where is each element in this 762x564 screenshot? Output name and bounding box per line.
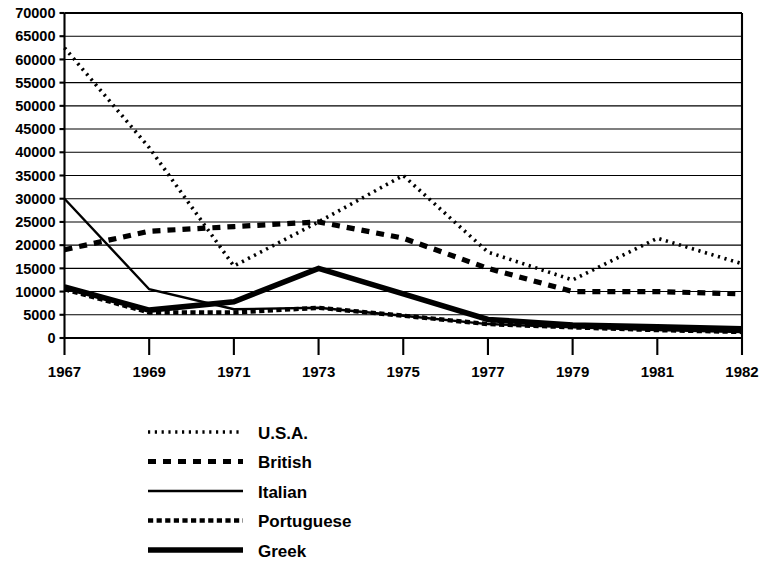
y-axis-tick-label: 40000 xyxy=(15,144,55,160)
x-axis-tick-labels: 196719691971197319751977197919811982 xyxy=(48,363,759,380)
y-axis-tick-label: 0 xyxy=(47,330,55,346)
y-axis-tick-label: 30000 xyxy=(15,191,55,207)
legend-label: U.S.A. xyxy=(258,424,308,443)
legend-label: British xyxy=(258,453,312,472)
x-axis-tick-label: 1967 xyxy=(48,363,81,380)
legend-label: Italian xyxy=(258,483,307,502)
y-axis-tick-label: 35000 xyxy=(15,168,55,184)
data-series-group xyxy=(65,48,743,332)
x-axis-tick-label: 1981 xyxy=(641,363,674,380)
y-axis-tick-label: 65000 xyxy=(15,28,55,44)
x-axis-tick-label: 1982 xyxy=(725,363,758,380)
y-axis-tick-label: 70000 xyxy=(15,5,55,21)
legend-item-italian: Italian xyxy=(148,483,307,502)
x-axis-tick-label: 1969 xyxy=(133,363,166,380)
x-axis-tickmarks xyxy=(65,338,743,355)
x-axis-tick-label: 1979 xyxy=(556,363,589,380)
chart-legend: U.S.A.BritishItalianPortugueseGreek xyxy=(148,424,352,561)
data-series-greek xyxy=(65,268,743,328)
legend-item-portuguese: Portuguese xyxy=(148,512,352,531)
x-axis-tick-label: 1973 xyxy=(302,363,335,380)
y-axis-tick-label: 50000 xyxy=(15,98,55,114)
legend-item-u-s-a: U.S.A. xyxy=(148,424,308,443)
gridlines-group xyxy=(65,36,743,315)
legend-label: Portuguese xyxy=(258,512,352,531)
x-axis-tick-label: 1971 xyxy=(217,363,250,380)
y-axis-tick-label: 60000 xyxy=(15,52,55,68)
y-axis-tick-label: 15000 xyxy=(15,261,55,277)
y-axis-tick-label: 10000 xyxy=(15,284,55,300)
legend-label: Greek xyxy=(258,542,307,561)
y-axis-tick-label: 20000 xyxy=(15,237,55,253)
chart-figure: 7000065000600005500050000450004000035000… xyxy=(0,0,762,564)
x-axis-tick-label: 1975 xyxy=(387,363,420,380)
y-axis-tick-label: 5000 xyxy=(23,307,55,323)
data-series-british xyxy=(65,222,743,294)
legend-item-greek: Greek xyxy=(148,542,307,561)
x-axis-tick-label: 1977 xyxy=(471,363,504,380)
y-axis-tick-label: 25000 xyxy=(15,214,55,230)
y-axis-tick-label: 45000 xyxy=(15,121,55,137)
y-axis-tick-label: 55000 xyxy=(15,75,55,91)
legend-item-british: British xyxy=(148,453,312,472)
line-chart: 7000065000600005500050000450004000035000… xyxy=(0,0,762,564)
y-axis-tick-labels: 7000065000600005500050000450004000035000… xyxy=(15,5,64,346)
